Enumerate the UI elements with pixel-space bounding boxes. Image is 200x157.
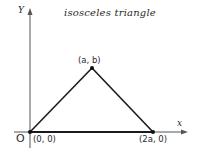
vertex-origin-dot bbox=[28, 130, 32, 134]
isosceles-triangle-diagram: isosceles triangle Y x O (0, 0) (a, b) (… bbox=[0, 0, 200, 157]
vertex-origin-label: (0, 0) bbox=[33, 135, 56, 144]
triangle-side-right bbox=[92, 68, 153, 132]
diagram-title: isosceles triangle bbox=[64, 8, 156, 18]
vertex-base-right-label: (2a, 0) bbox=[139, 135, 167, 144]
triangle-side-left bbox=[30, 68, 92, 132]
vertex-apex-label: (a, b) bbox=[78, 56, 101, 65]
x-axis-arrow-icon bbox=[181, 130, 188, 135]
y-axis-arrow-icon bbox=[28, 8, 33, 15]
origin-label: O bbox=[16, 133, 25, 144]
y-axis-label: Y bbox=[18, 6, 24, 15]
x-axis-label: x bbox=[177, 119, 182, 128]
vertex-apex-dot bbox=[90, 66, 94, 70]
diagram-canvas bbox=[0, 0, 200, 157]
